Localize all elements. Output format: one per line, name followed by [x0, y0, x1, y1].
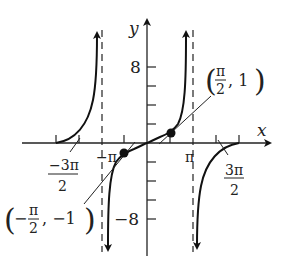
annotation-neg-point: ( − π 2 , −1 ) [4, 202, 96, 237]
tangent-graph: x y 8 −8 −π π −3π 2 3π 2 ( π 2 , 1 ) ( −… [0, 0, 281, 266]
x-tick-pi: π [185, 149, 194, 165]
svg-text:, 1: , 1 [228, 71, 248, 90]
x-axis-label: x [257, 120, 267, 140]
y-tick-neg-8: −8 [114, 209, 139, 229]
point-neg-pi-over-2 [120, 149, 129, 158]
x-tick-neg-3pi2-den: 2 [58, 178, 67, 194]
svg-text:2: 2 [216, 81, 225, 97]
svg-text:, −1: , −1 [42, 209, 76, 228]
x-tick-3pi2-num: 3π [225, 162, 243, 178]
svg-text:): ) [84, 202, 96, 237]
y-axis-label: y [128, 18, 139, 38]
curve-left-branch [56, 35, 97, 143]
svg-text:−: − [14, 209, 27, 228]
x-tick-neg-3pi2-num: −3π [49, 157, 79, 173]
svg-text:(: ( [205, 63, 217, 98]
svg-text:): ) [254, 63, 266, 98]
annotation-pos-point: ( π 2 , 1 ) [205, 63, 266, 98]
leader-pos-point [159, 96, 211, 144]
x-tick-neg-pi: −π [96, 149, 117, 165]
svg-text:π: π [29, 202, 38, 218]
leader-3pi2-left [70, 138, 80, 152]
y-tick-8: 8 [130, 57, 141, 77]
x-tick-3pi2-den: 2 [230, 182, 239, 198]
svg-text:2: 2 [29, 220, 38, 236]
point-pi-over-2 [167, 129, 176, 138]
svg-text:π: π [216, 63, 225, 79]
